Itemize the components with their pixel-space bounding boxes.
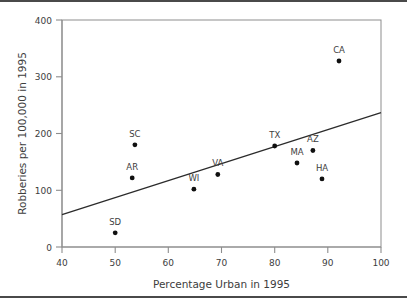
data-point-sc: SC — [129, 129, 140, 148]
data-dot — [192, 187, 197, 192]
data-point-label: VA — [212, 158, 223, 168]
data-point-az: AZ — [307, 134, 319, 153]
x-tick-label-60: 60 — [163, 258, 175, 268]
y-axis-tick-labels: 0 100 200 300 400 — [35, 16, 52, 253]
chart-canvas: 0 100 200 300 400 40 50 60 70 80 90 100 — [0, 0, 407, 304]
x-tick-label-100: 100 — [372, 258, 389, 268]
data-dot — [215, 172, 220, 177]
data-dot — [320, 177, 325, 182]
y-tick-label-300: 300 — [35, 72, 52, 82]
x-axis-tick-labels: 40 50 60 70 80 90 100 — [56, 258, 390, 268]
data-point-ma: MA — [290, 147, 303, 166]
data-point-label: TX — [268, 130, 280, 140]
data-point-label: AZ — [307, 134, 319, 144]
x-tick-label-50: 50 — [109, 258, 121, 268]
x-tick-label-40: 40 — [56, 258, 68, 268]
y-tick-label-0: 0 — [46, 243, 52, 253]
data-point-ar: AR — [126, 162, 138, 181]
data-point-va: VA — [212, 158, 223, 177]
data-dot — [272, 144, 277, 149]
data-point-ha: HA — [316, 163, 328, 182]
data-point-sd: SD — [109, 217, 121, 236]
data-points-group: SD AR SC WI VA TX — [109, 45, 345, 236]
data-point-label: AR — [126, 162, 138, 172]
x-tick-label-90: 90 — [322, 258, 334, 268]
data-point-wi: WI — [188, 173, 199, 192]
data-dot — [311, 148, 316, 153]
y-axis-title: Robberies per 100,000 in 1995 — [16, 52, 28, 215]
data-point-label: WI — [188, 173, 199, 183]
y-tick-label-400: 400 — [35, 16, 52, 26]
data-dot — [133, 142, 138, 147]
data-point-label: MA — [290, 147, 303, 157]
data-dot — [130, 176, 135, 181]
data-dot — [113, 230, 118, 235]
x-axis-ticks — [62, 247, 381, 253]
x-tick-label-80: 80 — [269, 258, 281, 268]
data-point-label: SC — [129, 129, 140, 139]
data-point-label: HA — [316, 163, 328, 173]
y-tick-label-200: 200 — [35, 129, 52, 139]
data-dot — [295, 161, 300, 166]
data-point-label: SD — [109, 217, 121, 227]
y-axis-ticks — [56, 20, 62, 247]
data-point-ca: CA — [333, 45, 345, 64]
y-tick-label-100: 100 — [35, 186, 52, 196]
x-axis-title: Percentage Urban in 1995 — [153, 278, 290, 290]
scatter-plot-figure: 0 100 200 300 400 40 50 60 70 80 90 100 — [0, 0, 407, 304]
data-point-label: CA — [333, 45, 345, 55]
data-dot — [337, 59, 342, 64]
x-tick-label-70: 70 — [216, 258, 228, 268]
